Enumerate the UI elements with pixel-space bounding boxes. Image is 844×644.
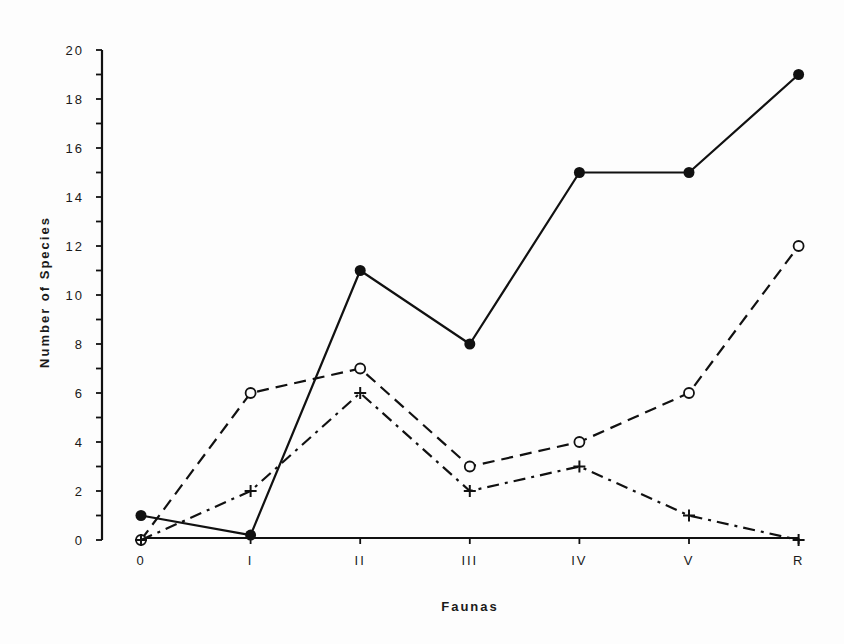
x-tick-label: 0 [136, 553, 145, 568]
data-point [574, 167, 585, 178]
data-point [136, 510, 147, 521]
data-point [684, 167, 695, 178]
data-point [793, 69, 804, 80]
y-tick-label: 2 [75, 484, 84, 499]
y-tick-label: 8 [75, 337, 84, 352]
y-tick-label: 18 [66, 92, 84, 107]
data-point [464, 339, 475, 350]
data-point [245, 485, 257, 497]
series-layer [135, 69, 805, 546]
data-point [793, 534, 805, 546]
data-point [574, 437, 584, 447]
y-tick-label: 0 [75, 533, 84, 548]
series-open-circle-dashed [136, 241, 804, 545]
x-axis: 0IIIIIIIVVR [136, 538, 804, 568]
data-point [465, 462, 475, 472]
x-tick-label: III [461, 553, 478, 568]
x-tick-label: V [684, 553, 695, 568]
x-tick-label: R [793, 553, 804, 568]
y-axis: 02468101214161820 [66, 43, 102, 548]
y-tick-label: 20 [66, 43, 84, 58]
data-point [355, 265, 366, 276]
x-tick-label: IV [571, 553, 587, 568]
y-tick-label: 12 [66, 239, 84, 254]
y-tick-label: 6 [75, 386, 84, 401]
x-axis-title: Faunas [441, 599, 499, 614]
y-tick-label: 16 [66, 141, 84, 156]
data-point [355, 364, 365, 374]
y-tick-label: 14 [66, 190, 84, 205]
y-tick-label: 4 [75, 435, 84, 450]
x-tick-label: II [355, 553, 366, 568]
data-point [684, 388, 694, 398]
x-tick-label: I [248, 553, 254, 568]
data-point [794, 241, 804, 251]
data-point [683, 510, 695, 522]
data-point [573, 461, 585, 473]
y-tick-label: 10 [66, 288, 84, 303]
data-point [246, 388, 256, 398]
y-axis-title: Number of Species [37, 216, 52, 368]
species-line-chart: 02468101214161820 0IIIIIIIVVR Faunas Num… [0, 0, 844, 644]
data-point [245, 530, 256, 541]
